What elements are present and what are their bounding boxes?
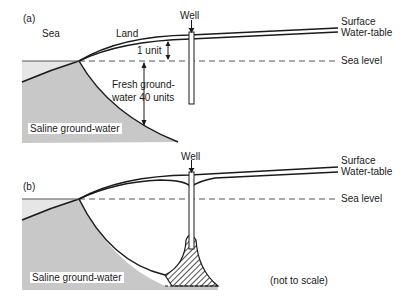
saline-label-b: Saline ground-water: [30, 272, 124, 283]
fresh-water-label-line1: Fresh ground-: [112, 79, 175, 90]
land-label-a: Land: [116, 28, 138, 39]
well-label-b: Well: [181, 151, 200, 162]
surface-label-a: Surface: [341, 16, 375, 27]
well-pipe-b: [189, 172, 194, 249]
water-table-label-b: Water-table: [341, 166, 392, 177]
sea-level-label-a: Sea level: [341, 55, 382, 66]
one-unit-label: 1 unit: [137, 45, 161, 56]
surface-label-b: Surface: [341, 155, 375, 166]
panel-b-tag: (b): [23, 181, 35, 192]
diagram-canvas: [0, 0, 418, 302]
sea-level-label-b: Sea level: [341, 193, 382, 204]
water-table-line-b: [79, 172, 338, 199]
saline-label-a: Saline ground-water: [28, 123, 122, 134]
panel-b-graphic: [22, 160, 338, 290]
surface-line-b: [79, 167, 338, 199]
sea-label-a: Sea: [42, 28, 60, 39]
fresh-water-label-line2: water 40 units: [112, 92, 174, 103]
well-pipe-a: [189, 32, 194, 104]
well-label-a: Well: [180, 10, 199, 21]
panel-a-tag: (a): [23, 13, 35, 24]
water-table-label-a: Water-table: [341, 27, 392, 38]
scale-note: (not to scale): [270, 275, 328, 286]
